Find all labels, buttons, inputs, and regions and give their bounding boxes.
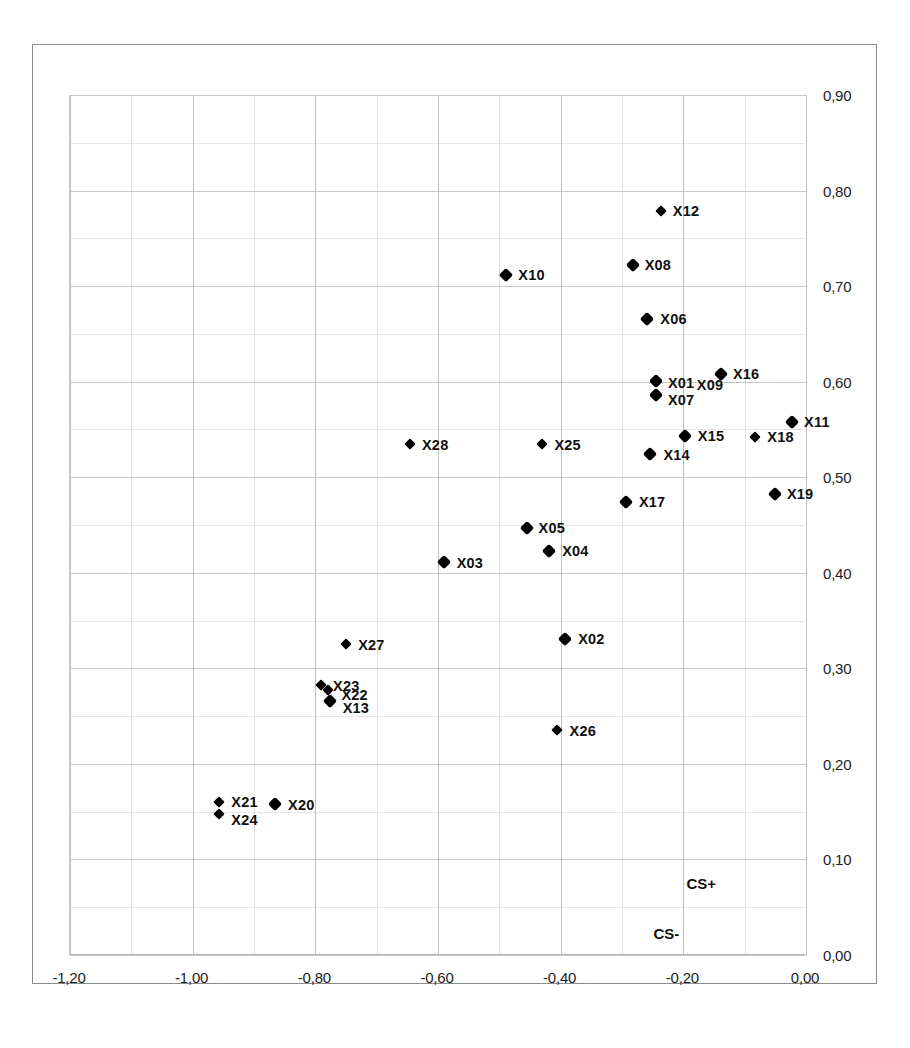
gridline-vertical <box>806 95 807 955</box>
data-point-label: X20 <box>288 797 314 813</box>
gridline-horizontal <box>70 764 806 765</box>
gridline-horizontal <box>70 668 806 669</box>
data-point-label: X09 <box>697 377 723 393</box>
data-point-label: X11 <box>804 414 830 430</box>
data-point-label: X01 <box>668 375 694 391</box>
data-point-label: X08 <box>645 257 671 273</box>
condition-annotation: CS- <box>653 925 679 942</box>
data-point-label: X25 <box>554 437 580 453</box>
data-point-label: X06 <box>660 311 686 327</box>
gridline-horizontal <box>70 382 806 383</box>
gridline-horizontal <box>70 477 806 478</box>
y-axis-tick-label: 0,70 <box>823 278 851 295</box>
y-axis-tick-label: 0,10 <box>823 851 851 868</box>
y-axis-tick-label: 0,50 <box>823 469 851 486</box>
x-axis-tick-label: -0,40 <box>543 969 576 986</box>
gridline-vertical <box>70 95 71 955</box>
y-axis-tick-label: 0,80 <box>823 182 851 199</box>
data-point-label: X21 <box>231 794 257 810</box>
data-point-label: X18 <box>767 429 793 445</box>
gridline-horizontal <box>70 859 806 860</box>
x-axis-tick-label: -0,60 <box>420 969 453 986</box>
data-point-label: X24 <box>231 812 257 828</box>
data-point-label: X05 <box>539 520 565 536</box>
x-axis-tick-label: -1,00 <box>175 969 208 986</box>
data-point-label: X17 <box>639 494 665 510</box>
data-point-label: X13 <box>343 700 369 716</box>
x-axis-tick-label: -1,20 <box>52 969 85 986</box>
data-point-label: X04 <box>562 543 588 559</box>
data-point-label: X10 <box>518 267 544 283</box>
gridline-horizontal <box>70 286 806 287</box>
data-point-label: X12 <box>673 203 699 219</box>
condition-annotation: CS+ <box>686 875 716 892</box>
y-axis-tick-label: 0,00 <box>823 947 851 964</box>
x-axis-tick-label: 0,00 <box>791 969 819 986</box>
y-axis-tick-label: 0,90 <box>823 87 851 104</box>
data-point-label: X03 <box>457 555 483 571</box>
scatter-plot-figure: -1,20-1,00-0,80-0,60-0,40-0,200,00 0,000… <box>0 0 910 1048</box>
data-point-label: X26 <box>570 723 596 739</box>
y-axis-tick-label: 0,30 <box>823 660 851 677</box>
gridline-horizontal <box>70 573 806 574</box>
gridline-vertical <box>315 95 316 955</box>
y-axis-tick-label: 0,40 <box>823 564 851 581</box>
data-point-label: X07 <box>668 392 694 408</box>
plot-area <box>69 95 805 955</box>
gridline-vertical <box>683 95 684 955</box>
data-point-label: X19 <box>787 486 813 502</box>
data-point-label: X15 <box>698 428 724 444</box>
y-axis-tick-label: 0,60 <box>823 373 851 390</box>
gridline-horizontal <box>70 95 806 96</box>
x-axis-tick-label: -0,20 <box>666 969 699 986</box>
gridline-horizontal <box>70 191 806 192</box>
gridline-vertical <box>438 95 439 955</box>
data-point-label: X28 <box>422 437 448 453</box>
y-axis-tick-label: 0,20 <box>823 755 851 772</box>
data-point-label: X14 <box>663 447 689 463</box>
data-point-label: X16 <box>733 366 759 382</box>
data-point-label: X02 <box>578 631 604 647</box>
data-point-label: X27 <box>358 637 384 653</box>
x-axis-tick-label: -0,80 <box>298 969 331 986</box>
gridline-horizontal <box>70 955 806 956</box>
gridline-vertical <box>193 95 194 955</box>
